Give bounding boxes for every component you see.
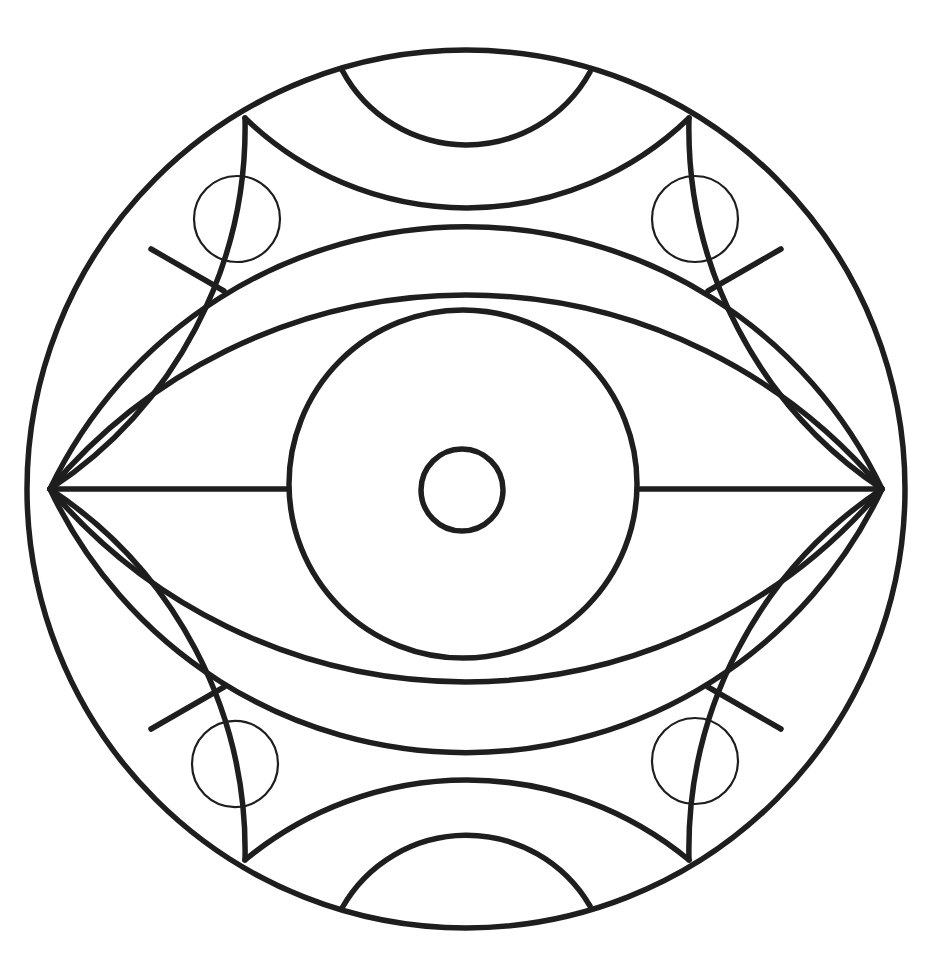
top-band-lower-curve [245, 118, 689, 208]
lower-eyelid-inner-arc [50, 489, 882, 682]
bottom-arch-arc [342, 835, 590, 908]
divider-line-lower-left [151, 687, 224, 729]
coloring-page [0, 0, 935, 965]
top-arch-arc [342, 70, 590, 145]
bottom-band-upper-curve [245, 780, 689, 860]
divider-line-lower-right [708, 687, 781, 729]
iris-circle [289, 310, 637, 658]
eye-mandala-drawing [0, 0, 935, 965]
pupil-circle [421, 449, 503, 531]
upper-eyelid-inner-arc [50, 295, 882, 489]
